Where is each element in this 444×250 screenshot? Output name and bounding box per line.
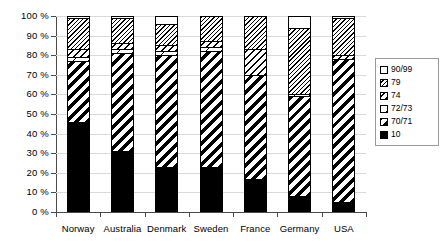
y-axis-tick	[51, 36, 56, 37]
bar-segment-79	[155, 24, 178, 46]
y-axis-tick	[51, 153, 56, 154]
bar-segment-74	[155, 45, 178, 51]
bar-usa	[332, 16, 355, 212]
y-axis-tick-label: 90 %	[27, 31, 49, 41]
y-axis-tick-label: 60 %	[27, 90, 49, 100]
x-axis-label-germany: Germany	[280, 224, 320, 234]
x-axis-tick	[189, 212, 190, 217]
y-axis-tick	[51, 75, 56, 76]
legend-item-label: 74	[391, 91, 400, 100]
chart-legend: 90/99797472/7370/7110	[375, 58, 439, 146]
x-axis-label-sweden: Sweden	[194, 224, 229, 234]
x-axis-line	[56, 212, 367, 213]
x-axis-label-norway: Norway	[62, 224, 95, 234]
bar-segment-74	[111, 43, 134, 49]
bar-segment-79	[332, 18, 355, 55]
bar-segment-74	[244, 49, 267, 74]
bar-segment-79	[67, 18, 90, 49]
x-axis-tick	[100, 212, 101, 217]
bar-segment-79	[288, 28, 311, 95]
legend-item-label: 70/71	[391, 117, 412, 126]
bar-segment-70-71	[244, 75, 267, 179]
bar-segment-74	[332, 55, 355, 59]
x-axis-tick	[233, 212, 234, 217]
y-axis-tick-label: 20 %	[27, 168, 49, 178]
bar-segment-74	[67, 49, 90, 57]
y-axis-tick-label: 30 %	[27, 148, 49, 158]
y-axis-tick	[51, 192, 56, 193]
y-axis-tick-label: 40 %	[27, 129, 49, 139]
legend-item-90-99[interactable]: 90/99	[380, 63, 434, 76]
legend-swatch-icon	[380, 92, 388, 100]
x-axis-label-denmark: Denmark	[147, 224, 186, 234]
bar-segment-90-99	[67, 16, 90, 18]
bar-segment-74	[200, 41, 223, 47]
y-axis-tick-label: 100 %	[21, 11, 49, 21]
y-axis-tick-label: 50 %	[27, 109, 49, 119]
bar-segment-70-71	[111, 53, 134, 151]
bar-sweden	[200, 16, 223, 212]
bar-segment-72-73	[155, 51, 178, 55]
x-axis-tick	[145, 212, 146, 217]
bar-segment-72-73	[67, 57, 90, 61]
legend-item-label: 90/99	[391, 65, 412, 74]
bar-germany	[288, 16, 311, 212]
bar-segment-10	[67, 122, 90, 212]
plot-area: 0 %10 %20 %30 %40 %50 %60 %70 %80 %90 %1…	[56, 16, 366, 212]
y-axis-tick	[51, 55, 56, 56]
legend-item-79[interactable]: 79	[380, 76, 434, 89]
bar-segment-72-73	[288, 94, 311, 96]
y-axis-tick	[51, 114, 56, 115]
bar-france	[244, 16, 267, 212]
y-axis-tick-label: 70 %	[27, 70, 49, 80]
bar-segment-10	[111, 151, 134, 212]
bar-segment-79	[111, 18, 134, 43]
x-axis-label-usa: USA	[334, 224, 354, 234]
legend-swatch-icon	[380, 131, 388, 139]
y-axis-tick-label: 80 %	[27, 50, 49, 60]
x-axis-tick	[56, 212, 57, 217]
bar-australia	[111, 16, 134, 212]
y-axis-tick	[51, 16, 56, 17]
bar-segment-70-71	[288, 96, 311, 196]
legend-swatch-icon	[380, 66, 388, 74]
legend-item-74[interactable]: 74	[380, 89, 434, 102]
bar-segment-90-99	[332, 16, 355, 18]
bar-segment-10	[332, 202, 355, 212]
y-axis-tick-label: 0 %	[32, 207, 49, 217]
x-axis-tick	[366, 212, 367, 217]
bar-segment-70-71	[67, 61, 90, 122]
x-axis-label-australia: Australia	[103, 224, 141, 234]
bar-segment-90-99	[288, 16, 311, 28]
bar-segment-90-99	[111, 16, 134, 18]
legend-item-10[interactable]: 10	[380, 128, 434, 141]
legend-item-70-71[interactable]: 70/71	[380, 115, 434, 128]
x-axis-tick	[322, 212, 323, 217]
legend-item-72-73[interactable]: 72/73	[380, 102, 434, 115]
bar-segment-79	[200, 16, 223, 41]
legend-item-label: 10	[391, 130, 400, 139]
bar-denmark	[155, 16, 178, 212]
bar-segment-70-71	[155, 55, 178, 167]
bar-segment-70-71	[332, 59, 355, 202]
y-axis-tick-label: 10 %	[27, 188, 49, 198]
bar-segment-90-99	[155, 16, 178, 24]
bar-segment-10	[244, 179, 267, 212]
bar-segment-72-73	[200, 47, 223, 51]
legend-swatch-icon	[380, 118, 388, 126]
legend-item-label: 79	[391, 78, 400, 87]
y-axis-tick	[51, 94, 56, 95]
stacked-bar-chart: 0 %10 %20 %30 %40 %50 %60 %70 %80 %90 %1…	[0, 0, 444, 250]
legend-swatch-icon	[380, 105, 388, 113]
bar-segment-70-71	[200, 51, 223, 167]
x-axis-label-france: France	[240, 224, 270, 234]
legend-swatch-icon	[380, 79, 388, 87]
legend-item-label: 72/73	[391, 104, 412, 113]
bar-segment-79	[244, 16, 267, 49]
y-axis-tick	[51, 134, 56, 135]
bar-segment-72-73	[111, 49, 134, 53]
bar-norway	[67, 16, 90, 212]
bar-segment-10	[288, 196, 311, 212]
x-axis-tick	[277, 212, 278, 217]
bar-segment-10	[155, 167, 178, 212]
